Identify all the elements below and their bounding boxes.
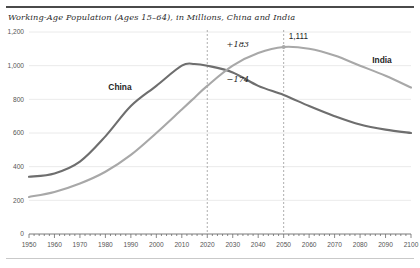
x-tick-label: 2090 [378, 241, 393, 248]
x-tick-label: 2010 [174, 241, 189, 248]
x-tick-marks-group [29, 234, 411, 238]
x-tick-label: 2060 [302, 241, 317, 248]
x-tick-label: 1990 [124, 241, 139, 248]
x-tick-label: 2050 [276, 241, 291, 248]
series-label-china: China [108, 82, 132, 92]
x-tick-label: 1950 [22, 241, 37, 248]
reference-lines-group [207, 30, 283, 234]
x-tick-label: 2030 [225, 241, 240, 248]
y-tick-label: 600 [13, 129, 24, 136]
y-tick-label: 400 [13, 163, 24, 170]
series-line-china [29, 63, 411, 176]
y-tick-label: 0 [20, 230, 24, 237]
x-axis-tick-labels: 1950196019701980199020002010202020302040… [22, 241, 419, 248]
x-tick-label: 1980 [98, 241, 113, 248]
chart-figure: Working-Age Population (Ages 15–64), in … [0, 0, 420, 268]
x-tick-label: 2020 [200, 241, 215, 248]
peak-marker-india [282, 45, 286, 49]
x-tick-label: 1970 [73, 241, 88, 248]
series-paths-group [29, 47, 411, 197]
y-tick-label: 800 [13, 96, 24, 103]
x-tick-label: 2070 [327, 241, 342, 248]
x-tick-label: 2040 [251, 241, 266, 248]
line-chart-plot: 02004006008001,0001,200 1950196019701980… [0, 0, 420, 268]
data-markers-group [282, 45, 286, 49]
annotations-group: +183−1741,111 [227, 32, 309, 84]
y-tick-label: 1,000 [7, 62, 24, 69]
y-tick-label: 1,200 [7, 28, 24, 35]
annotation-delta-india: +183 [227, 39, 250, 49]
x-tick-label: 2000 [149, 241, 164, 248]
series-label-india: India [372, 55, 392, 65]
x-tick-label: 2100 [404, 241, 419, 248]
y-tick-label: 200 [13, 197, 24, 204]
x-tick-label: 1960 [47, 241, 62, 248]
x-tick-label: 2080 [353, 241, 368, 248]
annotation-peak-india: 1,111 [289, 32, 309, 41]
gridlines-group [29, 32, 411, 200]
y-axis-tick-labels: 02004006008001,0001,200 [7, 28, 24, 237]
annotation-delta-china: −174 [227, 74, 250, 84]
